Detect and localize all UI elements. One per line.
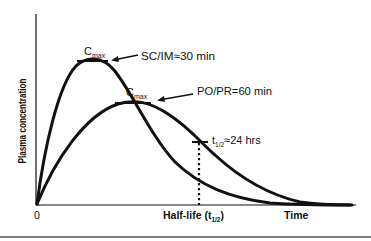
x-axis-label-time: Time <box>284 209 308 221</box>
pharmacokinetic-chart: Cmax Cmax SC/IM≈30 min PO/PR=60 min t1/2… <box>0 0 371 241</box>
sc-im-arrow-icon <box>111 55 138 62</box>
po-pr-cmax-label: Cmax <box>126 86 148 100</box>
po-pr-arrow-icon <box>157 94 193 102</box>
half-life-label: t1/2≈24 hrs <box>212 134 261 148</box>
y-axis-label: Plasma concentration <box>16 79 28 164</box>
sc-im-cmax-label: Cmax <box>84 45 106 59</box>
sc-im-curve <box>37 59 350 205</box>
po-pr-curve <box>37 102 352 205</box>
po-pr-label: PO/PR=60 min <box>197 85 272 97</box>
x-origin-label: 0 <box>34 209 40 221</box>
sc-im-label: SC/IM≈30 min <box>141 50 215 62</box>
x-halflife-label: Half-life (t1/2) <box>163 209 224 223</box>
